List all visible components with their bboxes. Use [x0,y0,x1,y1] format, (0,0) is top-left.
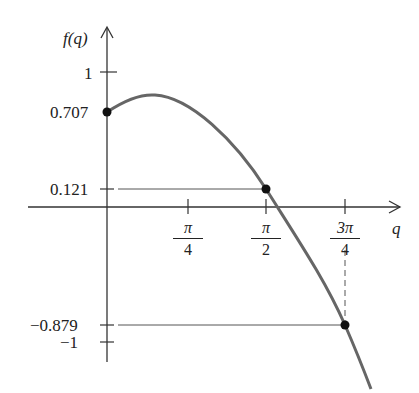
y-tick-label-1: 1 [84,65,93,82]
y-tick-label-n0879: −0.879 [30,317,78,334]
y-axis-label: f(q) [63,30,88,47]
point-3pi4-n0879 [341,321,350,330]
y-tick-label-n1: −1 [60,334,78,351]
y-tick-label-0707: 0.707 [50,104,88,121]
chart: f(q) 1 0.707 0.121 −0.879 −1 q π 4 π 2 3… [0,0,419,393]
point-0-0707 [103,108,112,117]
point-pi2-0121 [262,185,271,194]
x-tick-label-pi2: π 2 [251,220,281,258]
x-axis-label: q [392,220,401,237]
x-tick-label-3pi4: 3π 4 [330,220,360,258]
y-tick-label-0121: 0.121 [50,181,88,198]
x-tick-label-pi4: π 4 [173,220,203,258]
